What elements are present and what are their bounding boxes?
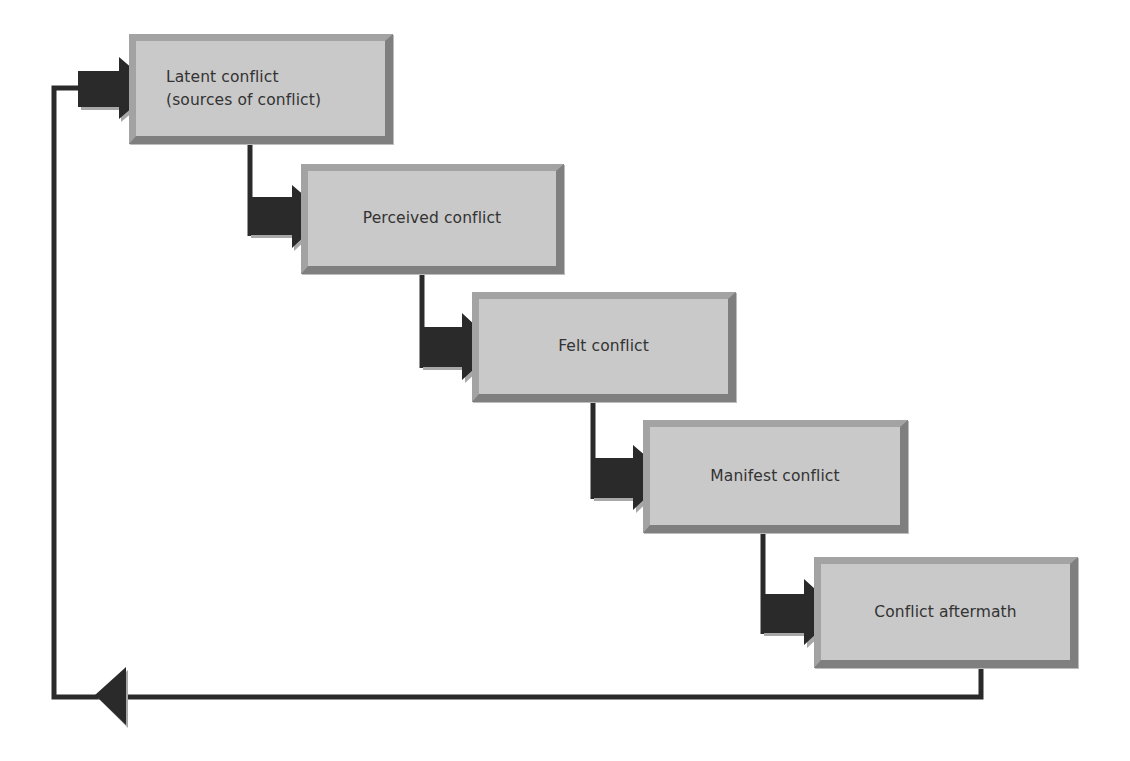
stage-perceived-conflict: Perceived conflict xyxy=(301,164,564,274)
stage-felt-conflict: Felt conflict xyxy=(472,292,736,402)
stage-latent-label-line1: Latent conflict xyxy=(166,66,321,89)
stage-aftermath-label: Conflict aftermath xyxy=(874,601,1016,624)
stage-manifest-label: Manifest conflict xyxy=(710,465,839,488)
stage-felt-label: Felt conflict xyxy=(558,335,649,358)
stage-conflict-aftermath: Conflict aftermath xyxy=(814,557,1078,668)
feedback-arrowhead-icon xyxy=(95,667,126,725)
stage-manifest-conflict: Manifest conflict xyxy=(643,420,908,533)
stage-latent-label-line2: (sources of conflict) xyxy=(166,89,321,112)
stage-perceived-label: Perceived conflict xyxy=(363,207,502,230)
conflict-process-diagram: Latent conflict (sources of conflict) Pe… xyxy=(0,0,1130,761)
stage-latent-label: Latent conflict (sources of conflict) xyxy=(166,66,321,112)
stage-latent-conflict: Latent conflict (sources of conflict) xyxy=(129,34,393,144)
